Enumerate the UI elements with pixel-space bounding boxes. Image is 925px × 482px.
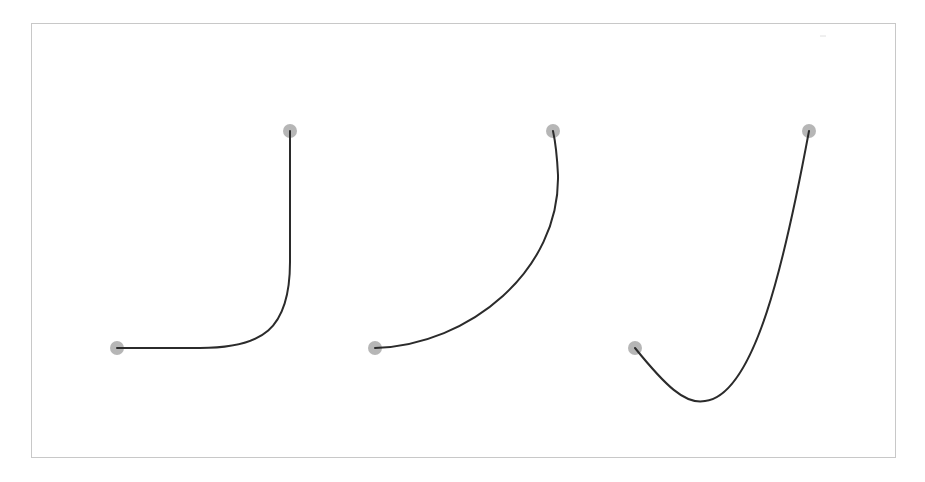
curve-group-3 bbox=[628, 124, 816, 402]
bezier-curve-dip[interactable] bbox=[635, 131, 809, 402]
curve-group-1 bbox=[110, 124, 297, 355]
curve-group-2 bbox=[368, 124, 560, 355]
bezier-curve-sharp[interactable] bbox=[117, 131, 290, 348]
bezier-curve-arc[interactable] bbox=[375, 131, 558, 348]
canvas-frame bbox=[32, 24, 896, 458]
diagram-canvas bbox=[0, 0, 925, 482]
